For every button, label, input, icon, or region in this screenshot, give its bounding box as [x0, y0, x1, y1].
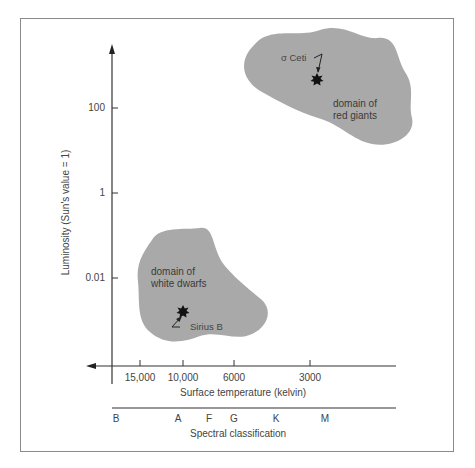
spectral-axis-label: Spectral classification	[190, 428, 286, 439]
x-axis-arrow-icon	[86, 363, 96, 369]
y-tick-1: 1	[65, 187, 105, 198]
x-tick-3000: 3000	[299, 372, 321, 383]
red-giants-label: domain of red giants	[333, 98, 377, 122]
red-giants-label-line2: red giants	[333, 110, 377, 122]
spectral-class-m: M	[321, 413, 329, 424]
spectral-class-k: K	[273, 413, 280, 424]
red-giants-label-line1: domain of	[333, 98, 377, 110]
white-dwarfs-label-line1: domain of	[151, 266, 207, 278]
y-tick-0-01: 0.01	[65, 272, 105, 283]
y-axis-arrow-icon	[109, 44, 115, 54]
spectral-class-g: G	[230, 413, 238, 424]
sirius-b-label: Sirius B	[190, 321, 223, 332]
y-tick-100: 100	[65, 102, 105, 113]
white-dwarfs-label-line2: white dwarfs	[151, 278, 207, 290]
x-tick-10000: 10,000	[168, 372, 199, 383]
x-tick-15000: 15,000	[125, 372, 156, 383]
spectral-class-b: B	[113, 413, 120, 424]
spectral-class-a: A	[175, 413, 182, 424]
white-dwarfs-label: domain of white dwarfs	[151, 266, 207, 290]
x-axis-label: Surface temperature (kelvin)	[180, 387, 306, 398]
sigma-ceti-label: σ Ceti	[281, 52, 306, 63]
x-tick-6000: 6000	[223, 372, 245, 383]
spectral-class-f: F	[206, 413, 212, 424]
y-axis-label: Luminosity (Sun's value = 1)	[60, 113, 71, 313]
red-giants-region	[244, 28, 412, 145]
